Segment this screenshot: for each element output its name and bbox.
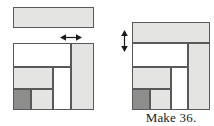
patch-bottom-light xyxy=(31,89,53,110)
border-strip-piece xyxy=(13,7,94,28)
caption-text: Make 36. xyxy=(132,110,210,125)
diagram-canvas: Make 36. xyxy=(0,0,214,126)
patch-top-band xyxy=(13,43,71,67)
height-arrow-icon xyxy=(120,29,129,53)
width-arrow-icon xyxy=(59,33,83,42)
patch-right-column xyxy=(188,43,210,110)
patch-top-band xyxy=(132,43,188,67)
patch-right-column xyxy=(71,43,94,110)
patch-bottom-light xyxy=(150,89,171,110)
patch-middle-left xyxy=(132,67,171,89)
patch-top-strip xyxy=(132,22,210,43)
left-block xyxy=(13,43,94,110)
patch-middle-right xyxy=(171,67,188,110)
patch-middle-left xyxy=(13,67,53,89)
right-block xyxy=(132,22,210,110)
patch-corner-dark xyxy=(132,89,150,110)
patch-middle-right xyxy=(53,67,71,110)
patch-corner-dark xyxy=(13,89,31,110)
